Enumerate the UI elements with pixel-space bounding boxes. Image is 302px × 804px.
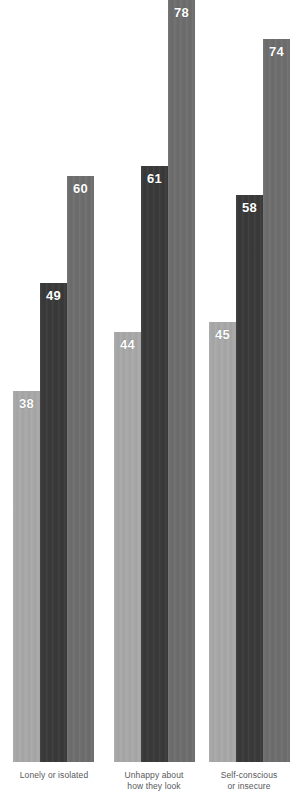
category-label-line: Lonely or isolated [0,770,108,781]
category-label: Lonely or isolated [0,770,108,781]
bar-group: 446178 [114,0,195,762]
category-label-line: or insecure [196,781,302,792]
bar-value-label: 38 [13,397,40,411]
bar-value-label: 49 [40,289,67,303]
chart-plot-area: 384960446178455874 [0,0,302,762]
bar[interactable]: 74 [263,39,290,762]
bar-value-label: 58 [236,201,263,215]
bar[interactable]: 60 [67,176,94,762]
bar[interactable]: 38 [13,391,40,762]
bar[interactable]: 45 [209,322,236,762]
bar-chart: 384960446178455874 Lonely or isolatedUnh… [0,0,302,804]
category-label-line: how they look [100,781,208,792]
bar-value-label: 74 [263,45,290,59]
bar-group: 455874 [209,0,290,762]
bar-value-label: 60 [67,182,94,196]
bar[interactable]: 49 [40,283,67,762]
bar[interactable]: 58 [236,195,263,762]
category-label: Self-consciousor insecure [196,770,302,792]
bar[interactable]: 78 [168,0,195,762]
bar-group: 384960 [13,0,94,762]
bar[interactable]: 61 [141,166,168,762]
bar-value-label: 78 [168,6,195,20]
bar[interactable]: 44 [114,332,141,762]
bar-value-label: 61 [141,172,168,186]
bar-value-label: 45 [209,328,236,342]
category-label-line: Self-conscious [196,770,302,781]
category-axis-labels: Lonely or isolatedUnhappy abouthow they … [0,762,302,804]
category-label-line: Unhappy about [100,770,208,781]
bar-value-label: 44 [114,338,141,352]
category-label: Unhappy abouthow they look [100,770,208,792]
